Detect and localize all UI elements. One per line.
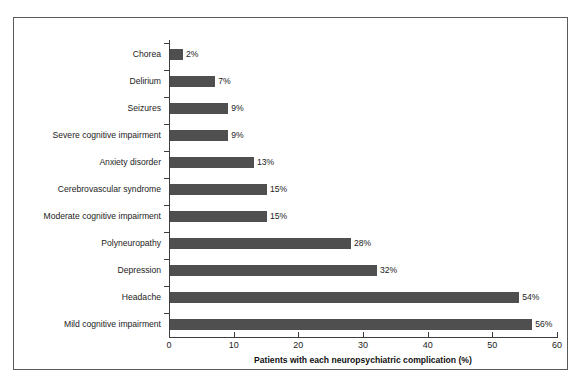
bar[interactable]: [170, 319, 532, 330]
category-label: Chorea: [14, 41, 166, 68]
category-label: Seizures: [14, 95, 166, 122]
bar-value-label: 56%: [532, 319, 552, 330]
y-axis-tick: [164, 286, 169, 287]
bar-row: Severe cognitive impairment9%: [14, 122, 567, 149]
bar-value-label: 32%: [377, 265, 397, 276]
bar[interactable]: [170, 130, 228, 141]
bar-value-label: 9%: [228, 130, 243, 141]
x-axis-title: Patients with each neuropsychiatric comp…: [169, 355, 557, 365]
y-axis-tick: [164, 313, 169, 314]
x-axis-tick-label: 30: [358, 340, 368, 350]
bar-value-label: 2%: [183, 49, 198, 60]
category-label: Cerebrovascular syndrome: [14, 176, 166, 203]
category-label: Moderate cognitive impairment: [14, 203, 166, 230]
x-axis-tick: [363, 332, 364, 338]
y-axis-tick: [164, 124, 169, 125]
bar-row: Moderate cognitive impairment15%: [14, 203, 567, 230]
y-axis-tick: [164, 259, 169, 260]
chart-frame: Chorea2%Delirium7%Seizures9%Severe cogni…: [13, 17, 568, 370]
y-axis-tick: [164, 178, 169, 179]
bar-row: Seizures9%: [14, 95, 567, 122]
bar-value-label: 15%: [267, 184, 287, 195]
bar[interactable]: [170, 157, 254, 168]
y-axis-tick: [164, 70, 169, 71]
x-axis-tick: [557, 332, 558, 338]
x-axis-tick-label: 20: [293, 340, 303, 350]
x-axis-tick: [298, 332, 299, 338]
category-label: Polyneuropathy: [14, 230, 166, 257]
category-label: Headache: [14, 284, 166, 311]
bar[interactable]: [170, 211, 267, 222]
bar[interactable]: [170, 292, 519, 303]
bar-row: Chorea2%: [14, 41, 567, 68]
y-axis-tick: [164, 43, 169, 44]
bar-value-label: 13%: [254, 157, 274, 168]
x-axis-tick-label: 0: [166, 340, 171, 350]
bar-row: Depression32%: [14, 257, 567, 284]
plot-area: Chorea2%Delirium7%Seizures9%Severe cogni…: [14, 18, 567, 369]
bar-value-label: 9%: [228, 103, 243, 114]
category-label: Depression: [14, 257, 166, 284]
bar[interactable]: [170, 49, 183, 60]
bar-row: Polyneuropathy28%: [14, 230, 567, 257]
bar-row: Delirium7%: [14, 68, 567, 95]
category-label: Mild cognitive impairment: [14, 311, 166, 338]
bar[interactable]: [170, 184, 267, 195]
bar-row: Anxiety disorder13%: [14, 149, 567, 176]
x-axis-tick-label: 50: [487, 340, 497, 350]
category-label: Severe cognitive impairment: [14, 122, 166, 149]
y-axis-tick: [164, 232, 169, 233]
y-axis-tick: [164, 97, 169, 98]
bar-row: Cerebrovascular syndrome15%: [14, 176, 567, 203]
bar-row: Mild cognitive impairment56%: [14, 311, 567, 338]
x-axis-tick: [428, 332, 429, 338]
x-axis-tick-label: 10: [229, 340, 239, 350]
x-axis-tick: [169, 332, 170, 338]
bar[interactable]: [170, 265, 377, 276]
y-axis-tick: [164, 151, 169, 152]
bar-value-label: 28%: [351, 238, 371, 249]
x-axis-tick-label: 40: [423, 340, 433, 350]
x-axis-tick: [492, 332, 493, 338]
bar[interactable]: [170, 76, 215, 87]
x-axis-tick-label: 60: [552, 340, 562, 350]
category-label: Delirium: [14, 68, 166, 95]
bar-row: Headache54%: [14, 284, 567, 311]
bar-value-label: 7%: [215, 76, 230, 87]
y-axis-tick: [164, 205, 169, 206]
bar[interactable]: [170, 238, 351, 249]
category-label: Anxiety disorder: [14, 149, 166, 176]
bar-value-label: 15%: [267, 211, 287, 222]
bar[interactable]: [170, 103, 228, 114]
x-axis-tick: [234, 332, 235, 338]
bar-value-label: 54%: [519, 292, 539, 303]
